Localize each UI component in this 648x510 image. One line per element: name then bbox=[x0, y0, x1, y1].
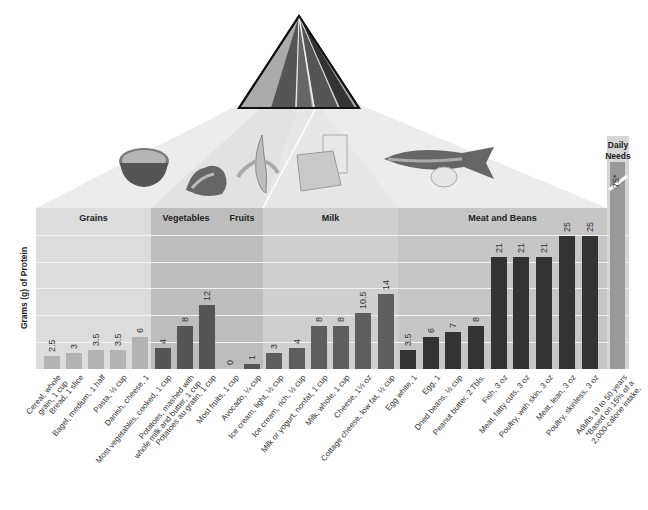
bar-value-label: 8 bbox=[180, 317, 190, 322]
bar-value-label: 14 bbox=[381, 280, 391, 290]
bar-value-label: 25 bbox=[585, 221, 595, 231]
bar-value-label: 7 bbox=[448, 323, 458, 328]
bar-value-label: 0 bbox=[225, 360, 235, 365]
gridline bbox=[36, 235, 607, 236]
fish-and-egg-icon bbox=[382, 145, 502, 190]
bar-value-label: 8 bbox=[471, 317, 481, 322]
daily-needs-value: 75* bbox=[611, 174, 621, 188]
bar bbox=[536, 257, 552, 369]
group-label-fruits: Fruits bbox=[221, 213, 263, 223]
bar-value-label: 4 bbox=[158, 339, 168, 344]
daily-needs-title-line1: Daily bbox=[604, 140, 632, 151]
lettuce-icon bbox=[182, 160, 232, 198]
bar-value-label: 3 bbox=[69, 344, 79, 349]
bar-value-label: 1 bbox=[247, 355, 257, 360]
bar bbox=[333, 326, 349, 369]
bar bbox=[244, 364, 260, 369]
bar bbox=[132, 337, 148, 369]
bar bbox=[199, 305, 215, 369]
bar bbox=[44, 356, 60, 369]
bar-value-label: 21 bbox=[494, 243, 504, 253]
bar bbox=[66, 353, 82, 369]
y-axis-label: Grams (g) of Protein bbox=[19, 233, 29, 343]
bar-value-label: 6 bbox=[135, 328, 145, 333]
bar bbox=[88, 350, 104, 369]
bar bbox=[468, 326, 484, 369]
group-label-milk: Milk bbox=[263, 213, 398, 223]
bar bbox=[378, 294, 394, 369]
daily-needs-title-line2: Needs bbox=[604, 151, 632, 162]
daily-needs-bar bbox=[610, 162, 625, 369]
bar bbox=[355, 313, 371, 369]
bar-value-label: 3.5 bbox=[113, 334, 123, 347]
bar bbox=[177, 326, 193, 369]
bar bbox=[513, 257, 529, 369]
group-label-meat-beans: Meat and Beans bbox=[398, 213, 607, 223]
bar-value-label: 6 bbox=[426, 328, 436, 333]
bar bbox=[155, 348, 171, 369]
bar bbox=[445, 332, 461, 369]
bar-value-label: 8 bbox=[314, 317, 324, 322]
bar bbox=[400, 350, 416, 369]
bar bbox=[311, 326, 327, 369]
bar-value-label: 10.5 bbox=[358, 291, 368, 309]
food-pyramid-icon bbox=[237, 14, 361, 110]
bar-value-label: 3.5 bbox=[403, 334, 413, 347]
bar bbox=[423, 337, 439, 369]
bar-value-label: 3.5 bbox=[91, 334, 101, 347]
bar bbox=[582, 236, 598, 370]
group-label-grains: Grains bbox=[36, 213, 151, 223]
bar-value-label: 21 bbox=[516, 243, 526, 253]
bar-value-label: 21 bbox=[539, 243, 549, 253]
bar-value-label: 2.5 bbox=[47, 339, 57, 352]
cereal-bowl-icon bbox=[117, 145, 172, 190]
bar bbox=[559, 236, 575, 370]
bar-value-label: 25 bbox=[562, 221, 572, 231]
group-label-vegetables: Vegetables bbox=[151, 213, 221, 223]
bar-value-label: 3 bbox=[269, 344, 279, 349]
bar bbox=[266, 353, 282, 369]
banana-icon bbox=[232, 133, 282, 198]
bar-value-label: 8 bbox=[336, 317, 346, 322]
daily-needs-title: Daily Needs bbox=[604, 140, 632, 162]
bar bbox=[110, 350, 126, 369]
bar bbox=[491, 257, 507, 369]
cheese-and-milk-icon bbox=[293, 133, 355, 195]
bar bbox=[289, 348, 305, 369]
bar-value-label: 4 bbox=[292, 339, 302, 344]
x-tick-label: Egg, 1 bbox=[420, 373, 442, 397]
bar-value-label: 12 bbox=[202, 291, 212, 301]
